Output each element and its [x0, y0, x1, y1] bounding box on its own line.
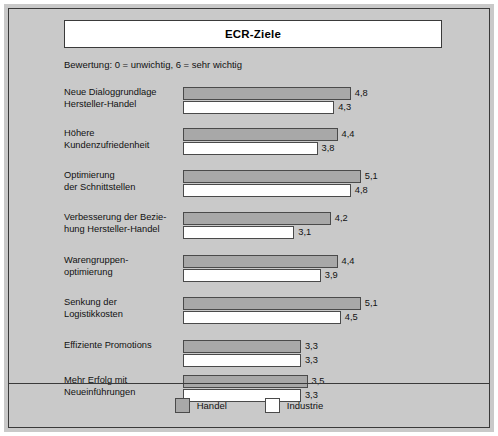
category-label: Neue DialoggrundlageHersteller-Handel	[64, 87, 182, 110]
bar-value-label: 4,3	[338, 101, 351, 114]
bar-row-handel: 4,4	[183, 255, 489, 268]
category-label-line: Logistikkosten	[64, 309, 182, 321]
bar-industrie	[183, 184, 351, 197]
bar-handel	[183, 128, 338, 141]
bar-handel	[183, 170, 361, 183]
bar-row-handel: 4,2	[183, 212, 489, 225]
bar-handel	[183, 87, 351, 100]
bar-row-industrie: 4,5	[183, 311, 489, 324]
category-label: Senkung derLogistikkosten	[64, 297, 182, 320]
scale-legend-text: Bewertung: 0 = unwichtig, 6 = sehr wicht…	[64, 59, 242, 70]
category-label-line: Effiziente Promotions	[64, 340, 182, 352]
category-label-line: Neue Dialoggrundlage	[64, 87, 182, 99]
category-label-line: optimierung	[64, 267, 182, 279]
bar-industrie	[183, 311, 341, 324]
bar-value-label: 3,3	[305, 354, 318, 367]
legend-item-industrie: Industrie	[265, 398, 323, 413]
category-label-line: Verbesserung der Bezie-	[64, 212, 182, 224]
bar-value-label: 3,9	[325, 269, 338, 282]
legend-swatch-industrie	[265, 398, 280, 413]
bar-handel	[183, 255, 338, 268]
bar-value-label: 4,2	[335, 212, 348, 225]
title-box: ECR-Ziele	[64, 20, 442, 48]
category-label: Optimierungder Schnittstellen	[64, 170, 182, 193]
bar-row-handel: 3,3	[183, 340, 489, 353]
legend-label: Handel	[197, 400, 227, 411]
bar-industrie	[183, 354, 301, 367]
page-title: ECR-Ziele	[225, 28, 281, 40]
category-label-line: Höhere	[64, 128, 182, 140]
bar-row-industrie: 3,9	[183, 269, 489, 282]
bar-value-label: 5,1	[365, 297, 378, 310]
bar-row-industrie: 3,1	[183, 226, 489, 239]
figure-root: ECR-Ziele Bewertung: 0 = unwichtig, 6 = …	[0, 0, 498, 436]
category-label-line: Hersteller-Handel	[64, 99, 182, 111]
category-label-line: Optimierung	[64, 170, 182, 182]
category-label-line: Kundenzufriedenheit	[64, 140, 182, 152]
bar-row-handel: 5,1	[183, 297, 489, 310]
bar-value-label: 4,4	[342, 128, 355, 141]
bar-row-industrie: 3,8	[183, 142, 489, 155]
bar-value-label: 3,1	[298, 226, 311, 239]
bar-industrie	[183, 269, 321, 282]
chart-panel: ECR-Ziele Bewertung: 0 = unwichtig, 6 = …	[8, 8, 490, 428]
bar-row-handel: 4,8	[183, 87, 489, 100]
bar-row-handel: 4,4	[183, 128, 489, 141]
category-label-line: Senkung der	[64, 297, 182, 309]
category-label: HöhereKundenzufriedenheit	[64, 128, 182, 151]
category-label: Warengruppen-optimierung	[64, 255, 182, 278]
bar-value-label: 4,8	[355, 184, 368, 197]
bar-industrie	[183, 101, 334, 114]
category-label-line: der Schnittstellen	[64, 182, 182, 194]
bar-industrie	[183, 142, 318, 155]
legend-swatch-handel	[175, 398, 190, 413]
legend-item-handel: Handel	[175, 398, 227, 413]
bar-handel	[183, 212, 331, 225]
bar-industrie	[183, 226, 294, 239]
bar-handel	[183, 340, 301, 353]
category-label-line: hung Hersteller-Handel	[64, 224, 182, 236]
bar-value-label: 4,5	[345, 311, 358, 324]
bar-row-industrie: 3,3	[183, 354, 489, 367]
bar-value-label: 4,8	[355, 87, 368, 100]
bar-value-label: 3,3	[305, 340, 318, 353]
category-label: Effiziente Promotions	[64, 340, 182, 352]
legend-label: Industrie	[287, 400, 323, 411]
bar-value-label: 5,1	[365, 170, 378, 183]
bar-value-label: 4,4	[342, 255, 355, 268]
bar-handel	[183, 297, 361, 310]
category-label-line: Warengruppen-	[64, 255, 182, 267]
category-label: Verbesserung der Bezie-hung Hersteller-H…	[64, 212, 182, 235]
bar-row-industrie: 4,3	[183, 101, 489, 114]
bar-row-handel: 5,1	[183, 170, 489, 183]
bar-row-industrie: 4,8	[183, 184, 489, 197]
bar-chart: Neue DialoggrundlageHersteller-Handel4,8…	[9, 75, 489, 383]
bar-value-label: 3,8	[322, 142, 335, 155]
chart-legend: HandelIndustrie	[9, 383, 489, 428]
